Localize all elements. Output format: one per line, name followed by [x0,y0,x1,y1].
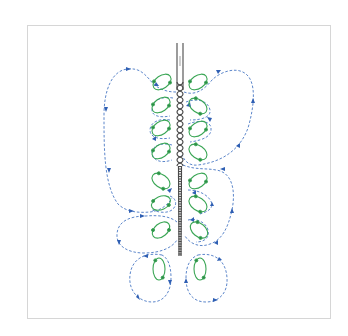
flow-loop-upper-right [182,70,253,165]
arrow-icon [251,98,255,103]
flow-loop-upper-left [104,69,176,212]
vortex-arrow-icon [199,112,202,115]
arrow-icon [167,188,172,193]
vortex-arrow-icon [167,204,170,207]
vortex-ring-right [186,141,210,163]
vortex-arrow-icon [168,104,171,107]
flow-loop-bottom-right [186,254,227,302]
vortex-ring-left [149,170,173,192]
arrow-icon [213,298,218,302]
arrow-icon [184,278,188,283]
vortex-arrow-icon [152,229,155,232]
vortex-arrow-icon [205,180,208,183]
vortex-arrow-icon [152,149,155,152]
arrow-icon [143,254,148,258]
arrow-icon [220,167,225,171]
rod-helix-upper-b [177,82,183,166]
vortex-arrow-icon [194,143,197,146]
vortex-arrow-icon [199,210,202,213]
rod-helix-upper [177,82,183,166]
vortex-ring-right [186,95,210,117]
vortex-arrow-icon [205,81,208,84]
vortex-arrow-icon [153,80,156,83]
vortex-arrow-icon [168,228,171,231]
arrow-icon [104,107,108,112]
arrow-icon [107,168,111,173]
twisted-rod [177,43,183,256]
vortex-arrow-icon [162,187,165,190]
vortex-arrow-icon [189,127,192,130]
arrow-icon [236,143,240,148]
arrow-icon [152,136,156,141]
vortex-arrow-icon [195,259,198,262]
vortex-arrow-icon [161,276,164,279]
arrow-icon [190,217,194,222]
arrow-icon [129,209,134,213]
flow-diagram [0,0,348,336]
vortex-arrow-icon [194,97,197,100]
arrow-icon [126,67,131,71]
vortex-arrow-icon [199,158,202,161]
vortex-arrow-icon [152,126,155,129]
arrow-icon [140,214,145,218]
vortex-arrow-icon [152,200,155,203]
arrow-icon [168,280,172,285]
arrow-icon [210,202,214,206]
flow-connector-right-2 [188,121,211,142]
vortex-arrow-icon [189,179,192,182]
vortex-arrow-icon [168,127,171,130]
vortex-arrow-icon [189,80,192,83]
arrow-icon [230,208,234,213]
arrow-icon [214,240,218,245]
vortex-arrow-icon [202,276,205,279]
arrow-icon [207,117,212,122]
figure-canvas [0,0,348,336]
vortex-arrow-icon [168,150,171,153]
flow-loop-middle-left [117,216,177,253]
vortex-arrow-icon [196,221,199,224]
vortex-arrow-icon [194,195,197,198]
vortex-arrow-icon [205,128,208,131]
arrow-icon [136,294,140,300]
vortex-arrow-icon [152,103,155,106]
arrow-icon [216,70,221,74]
flow-loop-bottom-left [130,254,171,302]
vortex-arrow-icon [154,259,157,262]
vortex-arrow-icon [169,81,172,84]
arrow-icon [217,257,222,261]
vortex-arrow-icon [157,172,160,175]
vortex-arrow-icon [199,236,202,239]
